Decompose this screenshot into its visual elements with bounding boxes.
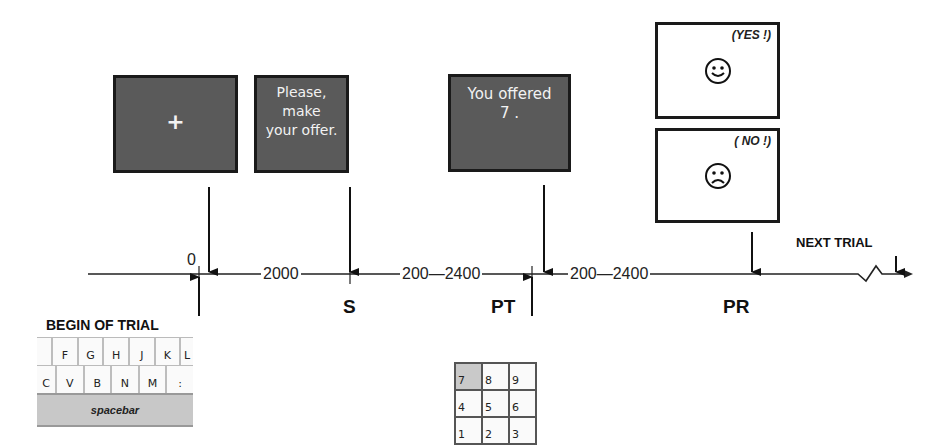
keyboard-row-1: F G H J K L (37, 337, 193, 365)
numpad-key-5: 5 (482, 390, 509, 417)
numpad-key-2: 2 (482, 417, 509, 444)
axis-arrowhead (904, 270, 913, 278)
numpad-key-8: 8 (482, 363, 509, 390)
begin-trial-label: BEGIN OF TRIAL (46, 317, 159, 333)
key-c: C (37, 366, 57, 393)
interval-proposal: 200—2400 (568, 266, 650, 282)
numpad-key-3: 3 (509, 417, 536, 444)
numpad-key-4: 4 (455, 390, 482, 417)
key-v: V (57, 366, 85, 393)
key-f: F (53, 338, 79, 365)
numpad-key-7: 7 (455, 363, 482, 390)
event-label-pr: PR (723, 296, 749, 318)
key-spacebar: spacebar (37, 393, 193, 427)
key-j: J (130, 338, 156, 365)
key-b: B (85, 366, 113, 393)
start-time-label: 0 (185, 252, 198, 268)
key-n: N (112, 366, 140, 393)
key-k: K (156, 338, 182, 365)
event-label-s: S (343, 296, 356, 318)
key-blank (37, 338, 53, 365)
time-axis (88, 266, 905, 281)
numpad-key-1: 1 (455, 417, 482, 444)
event-label-pt: PT (491, 296, 515, 318)
next-trial-label: NEXT TRIAL (796, 235, 873, 250)
numpad-key-9: 9 (509, 363, 536, 390)
key-h: H (104, 338, 130, 365)
numpad-illustration: 7 8 9 4 5 6 1 2 3 (454, 362, 537, 445)
key-g: G (79, 338, 105, 365)
keyboard-illustration: F G H J K L C V B N M : spacebar (37, 337, 193, 427)
keyboard-row-2: C V B N M : (37, 365, 193, 393)
key-m: M (140, 366, 168, 393)
key-l: L (181, 338, 193, 365)
interval-stimulus: 200—2400 (400, 266, 482, 282)
key-colon: : (167, 366, 193, 393)
numpad-key-6: 6 (509, 390, 536, 417)
interval-fixation: 2000 (261, 266, 301, 282)
